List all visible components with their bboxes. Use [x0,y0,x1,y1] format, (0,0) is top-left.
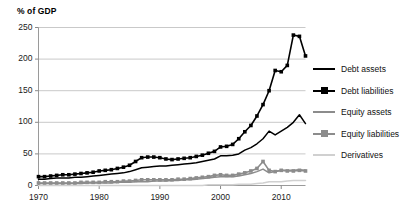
series-marker [49,174,53,178]
series-marker [116,167,120,171]
legend-swatch-icon [313,63,335,75]
series-marker [298,169,302,173]
series-marker [128,163,132,167]
series-marker [73,172,77,176]
series-marker [128,179,132,183]
series-marker [213,174,217,178]
series-marker [73,181,77,185]
series-marker [164,178,168,182]
series-marker [182,157,186,161]
legend-item-label: Equity assets [341,107,392,117]
series-marker [146,155,150,159]
series-marker [103,169,107,173]
series-marker [61,181,65,185]
series-marker [231,143,235,147]
y-tick-label: 100 [3,116,33,126]
legend-swatch-icon [313,85,335,97]
series-marker [37,175,41,179]
series-marker [219,173,223,177]
series-marker [43,181,47,185]
series-marker [152,155,156,159]
series-marker [207,151,211,155]
series-marker [91,170,95,174]
series-marker [292,169,296,173]
series-marker [116,180,120,184]
axis-lines [39,28,306,186]
series-marker [182,177,186,181]
series-marker [255,167,259,171]
series-marker [97,181,101,185]
series-marker [91,181,95,185]
series-marker [152,178,156,182]
data-series-group [37,33,308,185]
y-tick-label: 150 [3,85,33,95]
series-marker [201,153,205,157]
series-marker [298,35,302,39]
series-marker [134,160,138,164]
series-marker [146,178,150,182]
series-marker [261,160,265,164]
series-line [39,115,306,179]
series-marker [273,69,277,73]
series-marker [140,178,144,182]
series-marker [170,158,174,162]
series-marker [67,173,71,177]
series-marker [279,169,283,173]
series-marker [67,181,71,185]
series-marker [304,169,308,173]
series-marker [110,180,114,184]
series-marker [55,174,59,178]
series-marker [255,114,259,118]
y-tick-label: 250 [3,22,33,32]
legend-item-label: Derivatives [341,150,383,160]
legend-swatch-icon [313,128,335,140]
y-tick-label: 50 [3,148,33,158]
y-tick-label: 0 [3,180,33,190]
legend-item[interactable]: Equity liabilities [313,125,413,143]
series-marker [176,157,180,161]
series-marker [304,54,308,58]
chart-figure: % of GDP 050100150200250 197019801990200… [0,0,414,218]
legend-item[interactable]: Debt liabilities [313,82,413,100]
series-marker [188,177,192,181]
x-tick-label: 1980 [79,192,119,202]
legend-item[interactable]: Derivatives [313,146,413,164]
series-marker [225,174,229,178]
series-marker [219,145,223,149]
legend-item-label: Debt assets [341,64,386,74]
series-marker [55,181,59,185]
series-marker [134,179,138,183]
series-marker [249,169,253,173]
y-tick-label: 200 [3,53,33,63]
series-marker [37,181,41,185]
series-marker [170,178,174,182]
legend-item[interactable]: Equity assets [313,103,413,121]
series-marker [85,181,89,185]
series-marker [213,150,217,154]
legend-item-label: Debt liabilities [341,86,393,96]
series-marker [176,177,180,181]
legend-swatch-icon [313,106,335,118]
series-marker [85,171,89,175]
series-marker [158,156,162,160]
chart-legend: Debt assetsDebt liabilitiesEquity assets… [313,60,413,168]
series-marker [188,156,192,160]
series-marker [43,175,47,179]
series-marker [194,176,198,180]
series-marker [249,124,253,128]
series-marker [286,169,290,173]
series-marker [279,70,283,74]
series-marker [122,179,126,183]
series-marker [243,130,247,134]
x-tick-label: 1990 [140,192,180,202]
series-marker [286,64,290,68]
series-marker [140,156,144,160]
series-marker [97,169,101,173]
series-marker [158,178,162,182]
series-marker [267,89,271,93]
legend-item[interactable]: Debt assets [313,60,413,78]
series-marker [49,181,53,185]
series-marker [194,155,198,159]
series-marker [243,171,247,175]
legend-item-label: Equity liabilities [341,129,399,139]
